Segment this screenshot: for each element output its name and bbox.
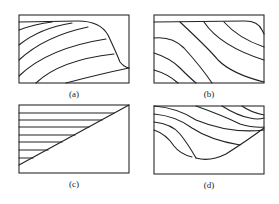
panel-b-contour-5 [154, 53, 196, 83]
panel-d-contour-4 [154, 130, 192, 157]
panel-c-frame [19, 105, 129, 173]
panel-a-contour-6 [66, 68, 129, 83]
panel-a-boundary-curve [19, 21, 129, 68]
panel-b-contour-3 [180, 22, 264, 82]
panel-c-label: (c) [69, 179, 79, 189]
panel-b-contour-1 [224, 22, 264, 47]
panel-b-frame [154, 15, 264, 83]
panel-d [154, 106, 264, 174]
figure-canvas: (a) (b) (c) (d) [0, 0, 279, 204]
panel-a-contour-5 [36, 54, 114, 83]
panel-a [19, 15, 129, 83]
panel-b-contour-6 [154, 70, 178, 83]
panel-a-label: (a) [69, 89, 79, 99]
panel-b-top-boundary [154, 21, 264, 34]
panel-d-contour-6 [222, 106, 264, 119]
panel-a-contour-3 [19, 27, 88, 60]
panel-d-contour-7 [242, 106, 264, 115]
panel-b [154, 15, 264, 83]
panel-b-label: (b) [204, 89, 215, 99]
panel-d-contour-3 [154, 122, 196, 158]
panel-c [19, 105, 129, 173]
panel-d-label: (d) [204, 180, 215, 190]
panel-d-bottom-boundary [196, 128, 264, 159]
